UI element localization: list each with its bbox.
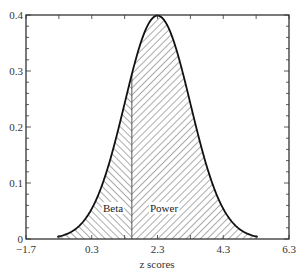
y-tick-label: 0.1 bbox=[9, 177, 23, 189]
x-axis-title: z scores bbox=[139, 258, 174, 270]
beta-region bbox=[59, 74, 132, 239]
y-tick-label: 0.2 bbox=[9, 121, 23, 133]
x-tick-label: 6.3 bbox=[282, 243, 296, 255]
y-tick-label: 0.3 bbox=[9, 65, 23, 77]
x-tick-label: 2.3 bbox=[151, 243, 165, 255]
normal-power-chart: −1.70.32.34.36.300.10.20.30.4 Beta Power… bbox=[0, 0, 304, 274]
x-tick-label: 4.3 bbox=[216, 243, 230, 255]
y-tick-label: 0.4 bbox=[9, 9, 23, 21]
power-region-label: Power bbox=[150, 202, 178, 214]
x-tick-label: 0.3 bbox=[85, 243, 99, 255]
y-tick-label: 0 bbox=[18, 233, 24, 245]
beta-region-label: Beta bbox=[103, 202, 123, 214]
